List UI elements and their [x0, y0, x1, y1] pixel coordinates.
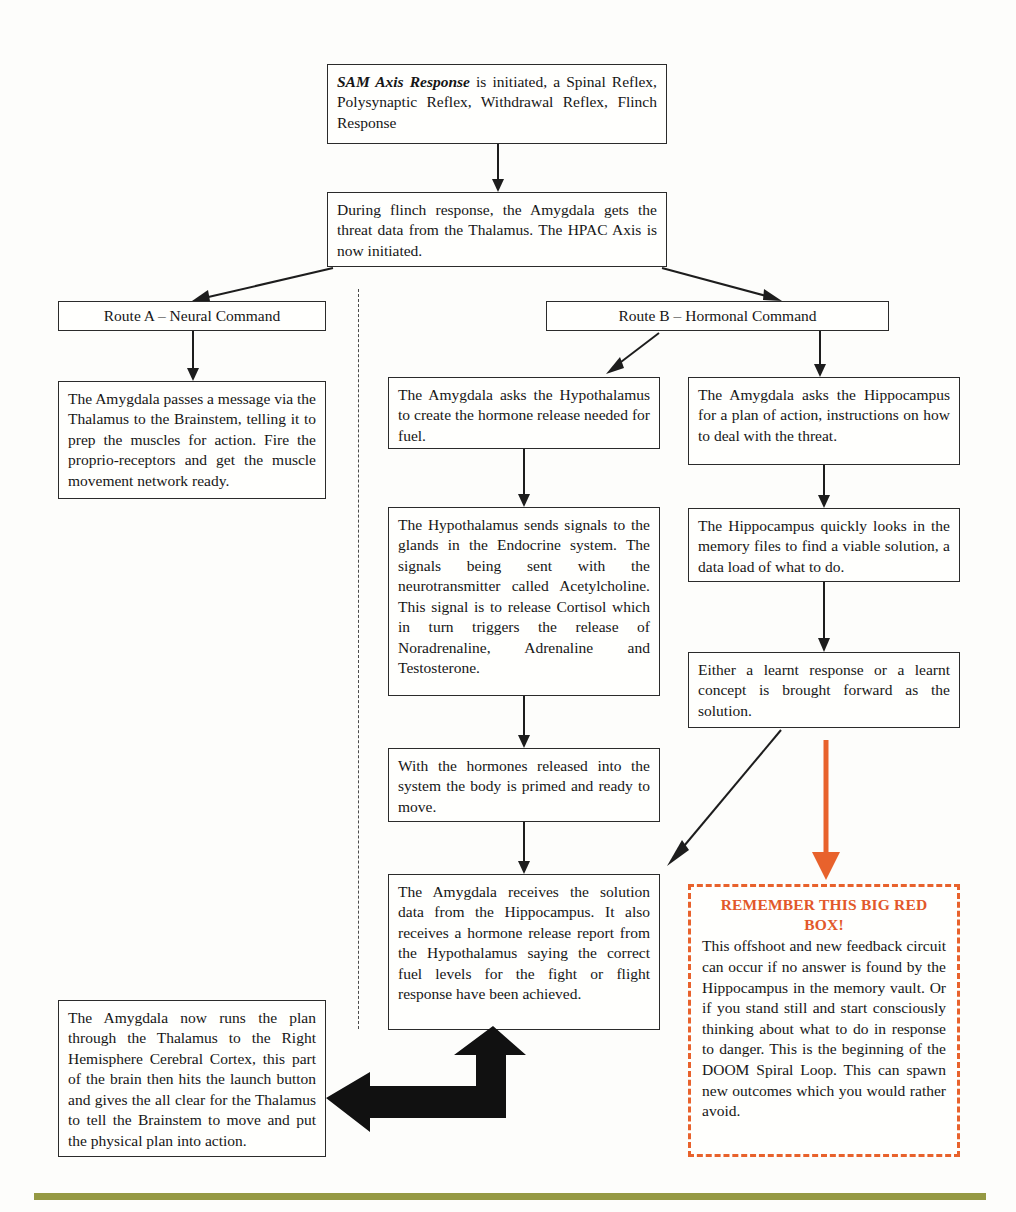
node-amygdala-asks-hippocampus: The Amygdala asks the Hippocampus for a … — [688, 377, 960, 465]
feedback-elbow-arrow — [326, 1026, 526, 1141]
route-a-body-text: The Amygdala passes a message via the Th… — [68, 390, 316, 489]
connector-hormones-to-amygdala-receives — [515, 822, 533, 874]
connector-sam-to-flinch — [489, 144, 507, 192]
node-sam-axis-response: SAM Axis Response is initiated, a Spinal… — [327, 64, 667, 144]
connector-orange-to-red-box — [808, 740, 844, 882]
route-a-header-text: Route A – Neural Command — [104, 306, 281, 326]
hippocampus-looks-memory-text: The Hippocampus quickly looks in the mem… — [698, 517, 950, 575]
connector-route-b-to-hypothalamus — [603, 331, 663, 377]
node-hippocampus-looks-memory: The Hippocampus quickly looks in the mem… — [688, 508, 960, 582]
node-route-a-header: Route A – Neural Command — [58, 301, 326, 331]
amygdala-runs-plan-text: The Amygdala now runs the plan through t… — [68, 1009, 316, 1149]
connector-route-a-to-body — [184, 331, 202, 381]
hormones-released-text: With the hormones released into the syst… — [398, 757, 650, 815]
node-amygdala-receives-solution: The Amygdala receives the solution data … — [388, 874, 660, 1030]
hypothalamus-sends-signals-text: The Hypothalamus sends signals to the gl… — [398, 516, 650, 676]
flinch-response-text: During flinch response, the Amygdala get… — [337, 201, 657, 259]
node-route-b-header: Route B – Hormonal Command — [546, 301, 889, 331]
amygdala-asks-hypothalamus-text: The Amygdala asks the Hypothalamus to cr… — [398, 386, 650, 444]
route-separator-dashed-line — [358, 289, 359, 1029]
connector-hippocampus-1-to-2 — [815, 465, 833, 508]
node-amygdala-runs-plan: The Amygdala now runs the plan through t… — [58, 1000, 326, 1157]
node-amygdala-asks-hypothalamus: The Amygdala asks the Hypothalamus to cr… — [388, 377, 660, 449]
red-box-body-text: This offshoot and new feedback circuit c… — [702, 937, 946, 1119]
amygdala-receives-solution-text: The Amygdala receives the solution data … — [398, 883, 650, 1002]
node-learnt-response: Either a learnt response or a learnt con… — [688, 652, 960, 728]
connector-learnt-response-to-amygdala — [655, 728, 785, 868]
connector-hypothalamus-1-to-2 — [515, 449, 533, 507]
callout-remember-big-red-box: REMEMBER THIS BIG RED BOX!This offshoot … — [688, 884, 960, 1157]
connector-hippocampus-2-to-3 — [815, 582, 833, 652]
node-route-a-body: The Amygdala passes a message via the Th… — [58, 381, 326, 499]
route-b-header-text: Route B – Hormonal Command — [618, 306, 816, 326]
red-box-title: REMEMBER THIS BIG RED BOX! — [702, 895, 946, 935]
footer-divider-rule — [34, 1193, 986, 1200]
sam-axis-lead-text: SAM Axis Response — [337, 73, 470, 90]
learnt-response-text: Either a learnt response or a learnt con… — [698, 661, 950, 719]
node-hormones-released: With the hormones released into the syst… — [388, 748, 660, 822]
flowchart-canvas: SAM Axis Response is initiated, a Spinal… — [0, 0, 1016, 1212]
connector-route-b-to-hippocampus — [811, 331, 829, 377]
node-hypothalamus-sends-signals: The Hypothalamus sends signals to the gl… — [388, 507, 660, 696]
connector-hypothalamus-2-to-3 — [515, 696, 533, 748]
amygdala-asks-hippocampus-text: The Amygdala asks the Hippocampus for a … — [698, 386, 950, 444]
node-flinch-response: During flinch response, the Amygdala get… — [327, 192, 667, 267]
